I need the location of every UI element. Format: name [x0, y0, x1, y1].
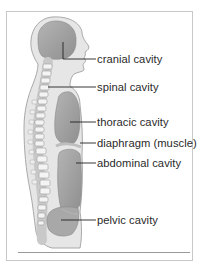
- cranial-cavity-region: [38, 21, 76, 59]
- abdominal-cavity-region: [58, 149, 82, 213]
- caption-divider: [18, 252, 190, 253]
- label-thoracic-cavity: thoracic cavity: [97, 116, 169, 128]
- thoracic-cavity-region: [55, 92, 80, 145]
- label-spinal-cavity: spinal cavity: [97, 81, 159, 93]
- pelvic-cavity-region: [47, 207, 79, 236]
- label-pelvic-cavity: pelvic cavity: [97, 214, 158, 226]
- label-cranial-cavity: cranial cavity: [97, 53, 162, 65]
- label-diaphragm: diaphragm (muscle): [97, 137, 197, 149]
- label-abdominal-cavity: abdominal cavity: [97, 157, 181, 169]
